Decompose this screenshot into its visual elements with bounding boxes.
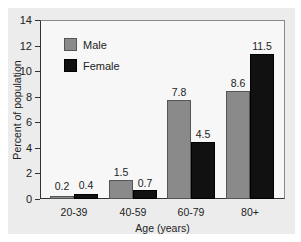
x-tick-label: 20-39 — [44, 206, 104, 218]
bar-male-20-39 — [50, 196, 74, 199]
y-tick — [35, 199, 40, 200]
value-label: 0.7 — [130, 177, 160, 189]
x-tick-label: 60-79 — [161, 206, 221, 218]
y-tick — [35, 20, 40, 21]
bar-female-80plus — [250, 54, 274, 199]
bar-female-40-59 — [133, 190, 157, 199]
legend-item-female: Female — [64, 59, 120, 72]
x-tick-label: 40-59 — [103, 206, 163, 218]
bar-male-80plus — [226, 91, 250, 199]
value-label: 0.4 — [71, 179, 101, 191]
bar-female-20-39 — [74, 194, 98, 199]
value-label: 11.5 — [247, 40, 277, 52]
y-axis-title: Percent of population — [11, 55, 23, 165]
x-axis-title: Age (years) — [40, 222, 285, 234]
y-tick-label: 14 — [6, 14, 32, 26]
y-tick-label: 0 — [6, 193, 32, 205]
x-tick-label: 80+ — [220, 206, 280, 218]
y-tick — [35, 71, 40, 72]
value-label: 8.6 — [223, 77, 253, 89]
legend-item-male: Male — [64, 38, 107, 51]
y-tick — [35, 46, 40, 47]
bar-female-60-79 — [191, 142, 215, 199]
value-label: 7.8 — [164, 86, 194, 98]
y-tick — [35, 97, 40, 98]
y-tick — [35, 173, 40, 174]
legend-swatch-male — [64, 38, 77, 51]
y-tick-label: 2 — [6, 167, 32, 179]
legend-label-female: Female — [83, 60, 120, 72]
y-tick-label: 12 — [6, 40, 32, 52]
y-tick — [35, 122, 40, 123]
legend-label-male: Male — [83, 39, 107, 51]
value-label: 4.5 — [188, 128, 218, 140]
bar-male-60-79 — [167, 100, 191, 199]
y-tick — [35, 148, 40, 149]
legend-swatch-female — [64, 59, 77, 72]
